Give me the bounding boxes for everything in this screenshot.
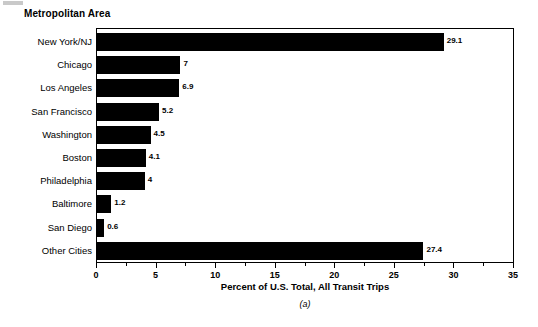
bar-value-label: 7 xyxy=(183,59,187,69)
bar-row: 5.2 xyxy=(97,103,514,121)
category-label: Other Cities xyxy=(4,245,92,257)
category-label: Los Angeles xyxy=(4,82,92,94)
category-label: San Francisco xyxy=(4,106,92,118)
category-label: Baltimore xyxy=(4,198,92,210)
x-tick-label: 30 xyxy=(438,270,468,281)
bar-value-label: 0.6 xyxy=(107,222,118,232)
bar-value-label: 27.4 xyxy=(426,245,442,255)
bar xyxy=(97,195,111,213)
x-tick-major xyxy=(513,263,514,268)
x-tick-label: 20 xyxy=(319,270,349,281)
bar xyxy=(97,172,145,190)
figure-caption: (a) xyxy=(96,299,514,309)
x-tick-minor xyxy=(483,263,484,266)
x-tick-major xyxy=(275,263,276,268)
category-label: Washington xyxy=(4,129,92,141)
bar xyxy=(97,149,146,167)
category-label: New York/NJ xyxy=(4,36,92,48)
bar xyxy=(97,103,159,121)
category-label: Philadelphia xyxy=(4,175,92,187)
x-tick-major xyxy=(453,263,454,268)
x-axis-title: Percent of U.S. Total, All Transit Trips xyxy=(96,281,514,292)
x-tick-label: 10 xyxy=(200,270,230,281)
x-tick-major xyxy=(156,263,157,268)
bar-value-label: 4.1 xyxy=(149,152,160,162)
x-tick-major xyxy=(334,263,335,268)
bar xyxy=(97,219,104,237)
x-tick-major xyxy=(394,263,395,268)
bar-value-label: 6.9 xyxy=(182,82,193,92)
bar xyxy=(97,79,179,97)
bar xyxy=(97,33,444,51)
category-axis-labels: New York/NJChicagoLos AngelesSan Francis… xyxy=(0,29,92,262)
chart-title: Metropolitan Area xyxy=(24,8,110,19)
bar-row: 6.9 xyxy=(97,79,514,97)
bar-row: 4 xyxy=(97,172,514,190)
category-label: Boston xyxy=(4,152,92,164)
bar-row: 7 xyxy=(97,56,514,74)
x-tick-minor xyxy=(424,263,425,266)
x-tick-label: 5 xyxy=(141,270,171,281)
x-tick-minor xyxy=(126,263,127,266)
bar-row: 4.5 xyxy=(97,126,514,144)
x-tick-major xyxy=(96,263,97,268)
bar xyxy=(97,56,180,74)
bar-row: 1.2 xyxy=(97,195,514,213)
bar-value-label: 5.2 xyxy=(162,106,173,116)
bar-value-label: 4 xyxy=(148,175,152,185)
x-tick-major xyxy=(215,263,216,268)
scan-artifact xyxy=(3,1,23,5)
bar-row: 0.6 xyxy=(97,219,514,237)
x-tick-label: 15 xyxy=(260,270,290,281)
x-tick-label: 0 xyxy=(81,270,111,281)
x-tick-label: 25 xyxy=(379,270,409,281)
bar-value-label: 29.1 xyxy=(447,36,463,46)
bars-container: 29.176.95.24.54.141.20.627.4 xyxy=(97,29,514,262)
category-label: San Diego xyxy=(4,222,92,234)
x-tick-minor xyxy=(185,263,186,266)
bar-row: 29.1 xyxy=(97,33,514,51)
x-tick-minor xyxy=(305,263,306,266)
x-tick-minor xyxy=(364,263,365,266)
x-tick-label: 35 xyxy=(498,270,528,281)
bar-value-label: 4.5 xyxy=(154,129,165,139)
bar xyxy=(97,126,151,144)
category-label: Chicago xyxy=(4,59,92,71)
bar xyxy=(97,242,423,260)
bar-row: 27.4 xyxy=(97,242,514,260)
bar-row: 4.1 xyxy=(97,149,514,167)
figure-panel: Metropolitan Area New York/NJChicagoLos … xyxy=(0,0,538,327)
x-tick-minor xyxy=(245,263,246,266)
bar-value-label: 1.2 xyxy=(114,198,125,208)
